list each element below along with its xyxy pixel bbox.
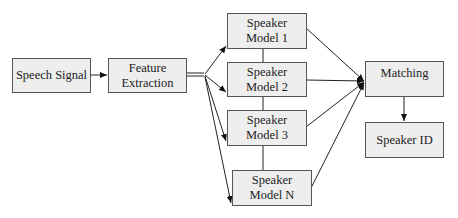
feature-extraction-label: Feature Extraction: [121, 61, 173, 91]
matching-node: Matching: [365, 61, 444, 97]
speaker-model-1-node: Speaker Model 1: [227, 13, 307, 49]
speech-signal-node: Speech Signal: [12, 58, 91, 93]
speaker-model-1-label: Speaker Model 1: [246, 16, 288, 46]
feature-extraction-node: Feature Extraction: [108, 58, 187, 93]
matching-label: Matching: [381, 66, 429, 81]
speech-signal-label: Speech Signal: [16, 68, 87, 83]
speaker-model-3-label: Speaker Model 3: [246, 113, 288, 143]
speaker-model-n-label: Speaker Model N: [250, 173, 295, 203]
speaker-model-n-node: Speaker Model N: [232, 170, 312, 206]
speaker-id-label: Speaker ID: [376, 133, 433, 148]
speaker-model-2-node: Speaker Model 2: [227, 62, 307, 97]
speaker-model-2-label: Speaker Model 2: [246, 65, 288, 95]
speaker-id-node: Speaker ID: [365, 122, 444, 158]
speaker-model-3-node: Speaker Model 3: [227, 110, 307, 146]
